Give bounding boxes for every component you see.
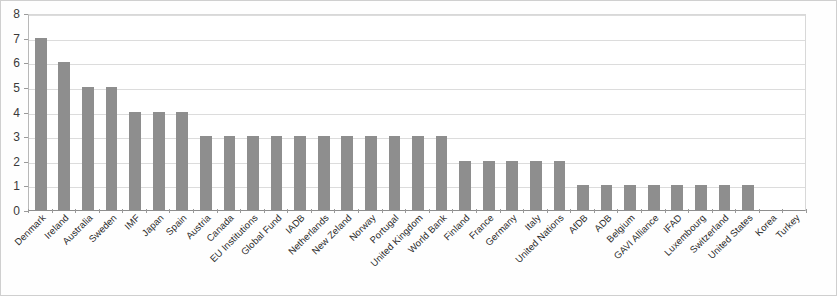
bar: [35, 38, 47, 210]
chart-frame: 012345678 DenmarkIrelandAustraliaSwedenI…: [0, 0, 837, 296]
bar-slot: [318, 15, 330, 210]
bar: [459, 161, 471, 210]
x-axis-tick-mark: [28, 209, 29, 213]
bar-series: [29, 15, 805, 210]
bar: [506, 161, 518, 210]
bar-slot: [35, 15, 47, 210]
x-axis-tick-mark: [358, 209, 359, 213]
x-axis-tick-mark: [146, 209, 147, 213]
bar: [483, 161, 495, 210]
bar: [436, 136, 448, 210]
bar-slot: [719, 15, 731, 210]
bar: [341, 136, 353, 210]
bar-slot: [341, 15, 353, 210]
bar: [365, 136, 377, 210]
bar: [82, 87, 94, 210]
bar-slot: [459, 15, 471, 210]
bar-slot: [294, 15, 306, 210]
bar: [224, 136, 236, 210]
x-axis-tick-mark: [476, 209, 477, 213]
bar-slot: [648, 15, 660, 210]
y-axis-tick-label: 3: [13, 132, 20, 142]
y-axis-tick-label: 5: [13, 83, 20, 93]
x-axis-tick-mark: [523, 209, 524, 213]
x-axis-tick-mark: [759, 209, 760, 213]
x-axis-tick-mark: [287, 209, 288, 213]
bar-slot: [365, 15, 377, 210]
bar-slot: [129, 15, 141, 210]
bar-slot: [671, 15, 683, 210]
bar: [648, 185, 660, 210]
bar-slot: [554, 15, 566, 210]
x-axis-tick-mark: [382, 209, 383, 213]
x-axis-labels: DenmarkIrelandAustraliaSwedenIMFJapanSpa…: [28, 212, 818, 296]
bar: [318, 136, 330, 210]
bar-slot: [601, 15, 613, 210]
bar-slot: [58, 15, 70, 210]
bar-slot: [695, 15, 707, 210]
x-axis-tick-mark: [405, 209, 406, 213]
x-axis-tick-mark: [122, 209, 123, 213]
bar: [176, 112, 188, 211]
bar-slot: [82, 15, 94, 210]
bar-slot: [153, 15, 165, 210]
y-axis: 012345678: [1, 1, 25, 231]
bar-slot: [789, 15, 801, 210]
bar: [719, 185, 731, 210]
x-axis-tick-mark: [641, 209, 642, 213]
bar: [554, 161, 566, 210]
x-axis-tick-mark: [452, 209, 453, 213]
y-axis-tick-label: 1: [13, 181, 20, 191]
bar: [153, 112, 165, 211]
x-axis-tick-mark: [617, 209, 618, 213]
plot-area: [28, 14, 806, 211]
x-axis-tick-mark: [665, 209, 666, 213]
bar-slot: [106, 15, 118, 210]
x-axis-tick-mark: [334, 209, 335, 213]
y-axis-tick-label: 2: [13, 157, 20, 167]
bar-slot: [624, 15, 636, 210]
bar-slot: [530, 15, 542, 210]
x-axis-tick-mark: [240, 209, 241, 213]
x-axis-tick-mark: [217, 209, 218, 213]
bar-slot: [436, 15, 448, 210]
x-axis-tick-mark: [75, 209, 76, 213]
bar: [695, 185, 707, 210]
bar: [271, 136, 283, 210]
bar-slot: [176, 15, 188, 210]
x-axis-tick-label: Turkey: [773, 212, 801, 240]
bar: [412, 136, 424, 210]
x-axis-tick-mark: [193, 209, 194, 213]
y-axis-tick-label: 4: [13, 108, 20, 118]
x-axis-tick-mark: [712, 209, 713, 213]
bar-slot: [224, 15, 236, 210]
bar-slot: [483, 15, 495, 210]
x-axis-tick-mark: [688, 209, 689, 213]
x-axis-tick-mark: [782, 209, 783, 213]
bar-slot: [742, 15, 754, 210]
x-axis-tick-label: IMF: [122, 212, 142, 232]
x-axis-tick-mark: [52, 209, 53, 213]
bar-slot: [412, 15, 424, 210]
bar: [106, 87, 118, 210]
bar-slot: [247, 15, 259, 210]
x-axis-tick-mark: [806, 209, 807, 213]
x-axis-tick-label: Japan: [139, 212, 165, 238]
bar-slot: [389, 15, 401, 210]
y-axis-tick-label: 7: [13, 34, 20, 44]
bar-slot: [200, 15, 212, 210]
x-axis-tick-mark: [735, 209, 736, 213]
y-axis-tick-label: 6: [13, 58, 20, 68]
bar: [129, 112, 141, 211]
bar-slot: [271, 15, 283, 210]
x-axis-tick-label: AfDB: [566, 212, 590, 236]
x-axis-tick-mark: [429, 209, 430, 213]
bar: [247, 136, 259, 210]
bar: [58, 62, 70, 210]
bar: [601, 185, 613, 210]
x-axis-tick-mark: [169, 209, 170, 213]
bar: [577, 185, 589, 210]
bar: [530, 161, 542, 210]
x-axis-tick-mark: [311, 209, 312, 213]
bar: [671, 185, 683, 210]
